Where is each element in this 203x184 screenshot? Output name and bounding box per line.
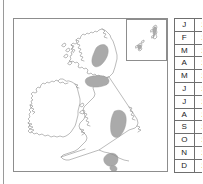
month-cell: S [175, 121, 195, 134]
southern-england-patch [104, 153, 118, 166]
value-cell: 2 [194, 95, 202, 108]
england-thames-estuary-detail [137, 126, 141, 132]
month-cell: N [175, 146, 195, 159]
month-cell: A [175, 108, 195, 121]
month-cell: F [175, 31, 195, 44]
value-cell: 2 [194, 134, 202, 147]
scotland-northeast-coast-detail [102, 29, 107, 38]
month-cell: O [175, 134, 195, 147]
month-cell: M [175, 70, 195, 83]
table-row: N 2 [175, 146, 203, 159]
value-cell: 2 [194, 70, 202, 83]
table-row: M 2 [175, 70, 203, 83]
england-east-coast-detail [129, 107, 135, 120]
monthly-records-table: J 2 F 2 M 2 A 2 M 2 J 2 [174, 18, 202, 173]
monthly-records-body: J 2 F 2 M 2 A 2 M 2 J 2 [175, 19, 203, 173]
map-panel [13, 18, 168, 172]
southern-england-small-patch [110, 166, 117, 171]
value-cell: 2 [194, 57, 202, 70]
value-cell: 2 [194, 159, 202, 172]
page-margin-rule [3, 0, 4, 184]
ireland-coast-detail-north [58, 81, 68, 84]
ireland-outline [28, 79, 80, 137]
scotland-island-2 [64, 54, 68, 58]
table-row: A 2 [175, 108, 203, 121]
value-cell: 2 [194, 108, 202, 121]
month-cell: A [175, 57, 195, 70]
value-cell: 2 [194, 31, 202, 44]
scotland-island-3 [68, 61, 72, 65]
table-row: A 2 [175, 57, 203, 70]
value-cell: 2 [194, 121, 202, 134]
table-row: D 2 [175, 159, 203, 172]
table-row: S 2 [175, 121, 203, 134]
table-row: F 2 [175, 31, 203, 44]
northern-isles-inset [126, 19, 167, 61]
scotland-island-1 [66, 48, 70, 52]
north-west-highlands-patch [92, 45, 108, 67]
value-cell: 2 [194, 44, 202, 57]
month-cell: M [175, 44, 195, 57]
table-row: J 2 [175, 19, 203, 32]
orkney-island-small [136, 45, 138, 48]
table-row: J 2 [175, 95, 203, 108]
month-cell: J [175, 95, 195, 108]
northern-isles-inset-svg [127, 20, 166, 60]
value-cell: 2 [194, 146, 202, 159]
scotland-island-4 [62, 43, 66, 47]
month-cell: D [175, 159, 195, 172]
value-cell: 2 [194, 82, 202, 95]
figure-page: J 2 F 2 M 2 A 2 M 2 J 2 [0, 0, 202, 184]
month-cell: J [175, 82, 195, 95]
scotland-outline [69, 29, 117, 78]
table-row: J 2 [175, 82, 203, 95]
table-row: M 2 [175, 44, 203, 57]
table-row: O 2 [175, 134, 203, 147]
isle-of-man [80, 103, 84, 107]
month-cell: J [175, 19, 195, 32]
england-wales-outline [61, 77, 138, 160]
orkney-island-tiny [142, 40, 144, 43]
value-cell: 2 [194, 19, 202, 32]
southern-uplands-patch [85, 76, 109, 87]
orkney-patch [138, 45, 141, 50]
shetland-island-small [151, 29, 153, 32]
shetland-patch [153, 27, 156, 36]
